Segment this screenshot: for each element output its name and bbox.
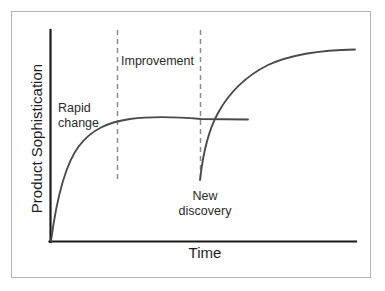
annotation-rapid-change-line1: Rapid xyxy=(58,101,91,115)
annotation-new-discovery: Newdiscovery xyxy=(165,189,245,218)
annotation-rapid-change-line2: change xyxy=(58,116,99,130)
annotation-rapid-change: Rapidchange xyxy=(58,101,99,130)
curve-first-technology xyxy=(51,117,248,241)
x-axis-title: Time xyxy=(165,246,245,261)
annotation-new-discovery-line1: New xyxy=(192,189,217,203)
annotation-new-discovery-line2: discovery xyxy=(179,204,232,218)
figure-container: Rapidchange Improvement Newdiscovery Tim… xyxy=(0,0,385,291)
annotation-improvement: Improvement xyxy=(121,54,194,69)
y-axis-title: Product Sophistication xyxy=(28,44,45,234)
curve-second-technology xyxy=(200,50,355,181)
